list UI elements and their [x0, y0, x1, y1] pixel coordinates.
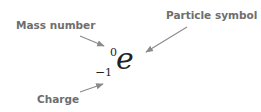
charge-label: Charge — [37, 93, 79, 105]
mass-number-arrow — [80, 36, 104, 46]
mass-number-label: Mass number — [16, 19, 95, 31]
charge-sign: − — [95, 66, 105, 78]
charge-value: 1 — [105, 67, 112, 78]
particle-symbol-label: Particle symbol — [166, 9, 257, 21]
particle-symbol: e — [116, 44, 134, 74]
charge-arrow — [80, 84, 103, 92]
particle-symbol-arrow — [146, 27, 187, 52]
